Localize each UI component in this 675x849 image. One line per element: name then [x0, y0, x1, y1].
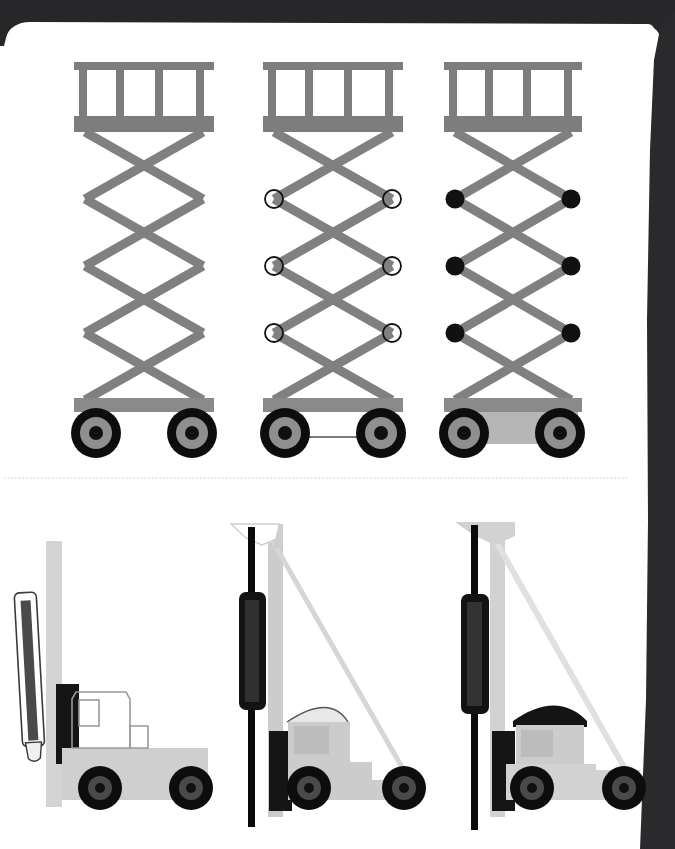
pivot-markers-hollow: [265, 190, 401, 342]
mast-column: [46, 541, 62, 807]
cab-window: [521, 730, 553, 757]
scissor-arms: [274, 132, 392, 400]
scissor-lift-3[interactable]: [439, 62, 585, 458]
scan-right-dark-band: [640, 0, 675, 849]
platform-deck: [74, 116, 214, 132]
lift-cylinder: [14, 592, 45, 762]
mast-lift-2[interactable]: [231, 524, 426, 827]
wheel-rear: [382, 766, 426, 810]
mast-lift-1[interactable]: [14, 541, 213, 810]
mast-lift-3[interactable]: [455, 522, 646, 830]
wheel-front: [78, 766, 122, 810]
wheel-front: [439, 408, 489, 458]
platform-railing: [74, 62, 214, 118]
platform-deck: [444, 116, 582, 132]
cab-window: [294, 726, 329, 754]
wheel-front: [71, 408, 121, 458]
wheel-rear: [356, 408, 406, 458]
cylinder-inner-rod: [245, 600, 259, 702]
wheel-rear: [535, 408, 585, 458]
scan-top-dark-band: [0, 0, 675, 60]
platform-deck: [263, 116, 403, 132]
scissor-lift-2[interactable]: [260, 62, 406, 458]
scissor-arms: [455, 132, 571, 400]
cab-outline: [72, 692, 148, 748]
wheel-rear: [169, 766, 213, 810]
wheel-front: [510, 766, 554, 810]
hood-arc: [287, 708, 348, 723]
scissor-lift-1[interactable]: [71, 62, 217, 458]
wheel-rear: [602, 766, 646, 810]
wheel-rear: [167, 408, 217, 458]
top-work-platform: [455, 522, 515, 545]
pivot-markers-solid: [446, 190, 581, 343]
cylinder-inner-rod: [467, 602, 482, 706]
scissor-arms: [85, 132, 203, 400]
page-corner-highlight: [620, 24, 655, 70]
platform-railing: [444, 62, 582, 118]
diagram-canvas: [0, 0, 675, 849]
wheel-front: [287, 766, 331, 810]
diagram-page: Scissor Lift and Vertical Mast Lift Diag…: [0, 0, 675, 849]
platform-railing: [263, 62, 403, 118]
cab-canopy: [513, 706, 587, 728]
wheel-front: [260, 408, 310, 458]
